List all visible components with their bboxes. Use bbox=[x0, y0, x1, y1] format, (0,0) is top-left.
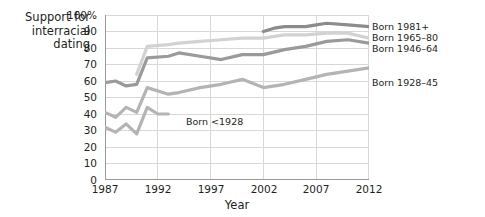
x-tick-label-1992: 1992 bbox=[134, 184, 182, 195]
y-tick-label-90: 90 bbox=[57, 26, 97, 37]
y-tick-label-10: 10 bbox=[57, 158, 97, 169]
series-label-born-1928-45: Born 1928–45 bbox=[372, 78, 438, 88]
y-tick-label-30: 30 bbox=[57, 125, 97, 136]
x-tick-label-2002: 2002 bbox=[240, 184, 288, 195]
x-tick-label-1987: 1987 bbox=[81, 184, 129, 195]
plot-svg bbox=[105, 15, 369, 180]
y-tick-label-50: 50 bbox=[57, 92, 97, 103]
y-tick-label-80: 80 bbox=[57, 43, 97, 54]
y-tick-label-60: 60 bbox=[57, 76, 97, 87]
series-label-born-1946-64: Born 1946–64 bbox=[372, 44, 438, 54]
y-tick-label-20: 20 bbox=[57, 142, 97, 153]
y-tick-label-40: 40 bbox=[57, 109, 97, 120]
y-tick-label-100: 100% bbox=[57, 10, 97, 21]
plot-area bbox=[105, 15, 369, 180]
series-label-born-1965-80: Born 1965–80 bbox=[372, 33, 438, 43]
series-label-born-pre-1928: Born <1928 bbox=[186, 117, 243, 127]
line-chart: Support for interracial dating 100% 90 8… bbox=[0, 0, 485, 217]
x-tick-label-1997: 1997 bbox=[187, 184, 235, 195]
x-tick-label-2007: 2007 bbox=[292, 184, 340, 195]
x-axis-title: Year bbox=[105, 198, 369, 212]
series-label-born-1981-plus: Born 1981+ bbox=[372, 22, 429, 32]
x-tick-label-2012: 2012 bbox=[345, 184, 393, 195]
y-tick-label-70: 70 bbox=[57, 59, 97, 70]
